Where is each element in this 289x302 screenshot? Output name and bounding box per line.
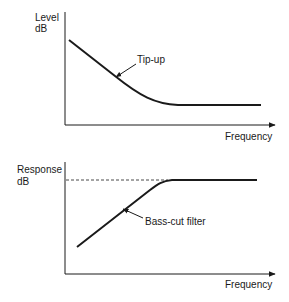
bottom-chart: Response dB Frequency Bass-cut filter	[17, 162, 275, 290]
top-y-label-level: Level	[35, 12, 59, 23]
top-chart: Level dB Frequency Tip-up	[35, 12, 275, 142]
bass-cut-filter-label: Bass-cut filter	[145, 216, 206, 227]
diagram-canvas: Level dB Frequency Tip-up Response dB Fr…	[0, 0, 289, 302]
bottom-x-label-frequency: Frequency	[225, 279, 272, 290]
tip-up-label: Tip-up	[137, 54, 165, 65]
bottom-y-label-response: Response	[17, 164, 62, 175]
bottom-y-label-db: dB	[17, 176, 30, 187]
top-x-label-frequency: Frequency	[225, 131, 272, 142]
bass-cut-pointer-arrow	[123, 209, 143, 218]
bass-cut-filter-curve	[77, 180, 257, 247]
top-y-label-db: dB	[35, 23, 48, 34]
tip-up-curve	[69, 40, 261, 105]
tip-up-pointer-arrow	[116, 64, 136, 77]
